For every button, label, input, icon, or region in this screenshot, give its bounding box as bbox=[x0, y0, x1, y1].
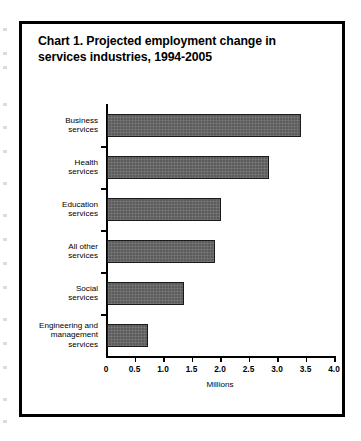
bar-row: Engineering and management services bbox=[106, 324, 334, 347]
edge-speck bbox=[3, 238, 7, 241]
category-label: Health services bbox=[0, 158, 98, 177]
bar bbox=[107, 156, 269, 179]
category-label: All other services bbox=[0, 242, 98, 261]
edge-speck bbox=[3, 398, 7, 401]
chart-title: Chart 1. Projected employment change in … bbox=[38, 34, 324, 65]
bar bbox=[107, 282, 184, 305]
page-edge-artifacts bbox=[0, 0, 14, 441]
x-axis-title: Millions bbox=[106, 380, 334, 389]
bar bbox=[107, 240, 215, 263]
edge-speck bbox=[3, 28, 7, 31]
category-axis-tick bbox=[101, 146, 107, 148]
x-axis-tick bbox=[135, 356, 137, 362]
x-axis-tick bbox=[249, 356, 251, 362]
category-axis-tick bbox=[101, 314, 107, 316]
edge-speck bbox=[3, 262, 7, 265]
edge-speck bbox=[3, 420, 7, 423]
edge-speck bbox=[3, 366, 7, 369]
x-axis-tick bbox=[334, 356, 336, 362]
bar-row: Health services bbox=[106, 156, 334, 179]
category-label: Engineering and management services bbox=[0, 321, 98, 349]
chart-figure: Chart 1. Projected employment change in … bbox=[19, 21, 345, 417]
bar-row: All other services bbox=[106, 240, 334, 263]
x-axis-tick-label: 4.0 bbox=[314, 364, 354, 374]
bar-row: Business services bbox=[106, 114, 334, 137]
edge-speck bbox=[3, 52, 7, 55]
bar bbox=[107, 324, 148, 347]
bar-row: Education services bbox=[106, 198, 334, 221]
plot-area: Business servicesHealth servicesEducatio… bbox=[106, 104, 334, 356]
category-axis-tick bbox=[101, 188, 107, 190]
category-axis-tick bbox=[101, 272, 107, 274]
category-axis-tick bbox=[101, 230, 107, 232]
x-axis-tick bbox=[192, 356, 194, 362]
category-label: Business services bbox=[0, 116, 98, 135]
edge-speck bbox=[3, 182, 7, 185]
bar bbox=[107, 198, 221, 221]
category-label: Social services bbox=[0, 284, 98, 303]
bar-row: Social services bbox=[106, 282, 334, 305]
x-axis-tick bbox=[163, 356, 165, 362]
edge-speck bbox=[3, 150, 7, 153]
x-axis-tick bbox=[220, 356, 222, 362]
edge-speck bbox=[3, 66, 7, 69]
category-label: Education services bbox=[0, 200, 98, 219]
x-axis-tick bbox=[306, 356, 308, 362]
bar bbox=[107, 114, 301, 137]
edge-speck bbox=[3, 103, 7, 106]
x-axis-tick bbox=[277, 356, 279, 362]
